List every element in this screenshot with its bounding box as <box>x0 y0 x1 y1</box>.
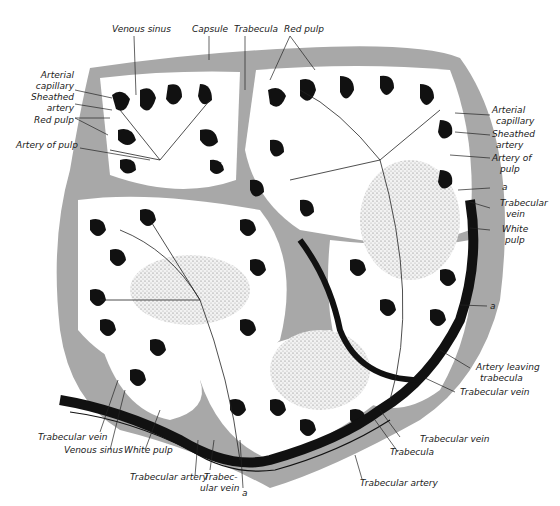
label-a-right-2: a <box>490 301 496 312</box>
label-sheathed-right-1: Sheathed <box>492 129 535 140</box>
label-white-pulp-right-2: pulp <box>505 235 525 246</box>
white-pulp-bottom <box>270 330 370 410</box>
label-artery-leaving-2: trabecula <box>480 373 523 384</box>
label-sheathed-right-2: artery <box>496 140 523 151</box>
label-a-bottom: a <box>242 488 248 499</box>
label-trabecula-bottom: Trabecula <box>390 447 434 458</box>
label-sheathed-left-2: artery <box>20 103 74 114</box>
label-trabecular-vein-bl: Trabecular vein <box>38 432 108 443</box>
label-red-pulp-left: Red pulp <box>20 115 74 126</box>
white-pulp-left <box>130 255 250 325</box>
label-a-right-1: a <box>502 182 508 193</box>
label-trabecular-artery-bottom: Trabecular artery <box>360 478 438 489</box>
label-venous-sinus-top: Venous sinus <box>112 24 171 35</box>
label-arterial-left-2: capillary <box>20 81 74 92</box>
label-red-pulp-top: Red pulp <box>284 24 324 35</box>
label-sheathed-left-1: Sheathed <box>20 92 74 103</box>
label-artery-leaving-1: Artery leaving <box>476 362 540 373</box>
label-trabecular-artery-bl: Trabecular artery <box>130 472 208 483</box>
label-arterial-left-1: Arterial <box>20 70 74 81</box>
label-venous-sinus-bottom: Venous sinus <box>64 445 123 456</box>
label-artery-of-pulp-right-2: pulp <box>500 164 520 175</box>
label-arterial-right-2: capillary <box>496 116 534 127</box>
spleen-diagram: Venous sinus Capsule Trabecula Red pulp … <box>0 0 560 506</box>
label-white-pulp-right-1: White <box>502 224 528 235</box>
label-artery-of-pulp-left: Artery of pulp <box>10 140 78 151</box>
label-trabecular-vein-right-3: Trabecular vein <box>460 387 530 398</box>
label-trabecular-vein-bottom: Trabecular vein <box>420 434 490 445</box>
label-arterial-right-1: Arterial <box>492 105 525 116</box>
diagram-illustration <box>0 0 560 506</box>
label-trabec-ular-vein-2: ular vein <box>200 483 239 494</box>
label-trabecular-vein-right-1: Trabecular <box>500 198 548 209</box>
label-artery-of-pulp-right-1: Artery of <box>492 153 532 164</box>
label-white-pulp-bottom: White pulp <box>124 445 173 456</box>
label-capsule: Capsule <box>192 24 228 35</box>
label-trabec-ular-vein-1: Trabec- <box>204 472 237 483</box>
label-trabecula-top: Trabecula <box>234 24 278 35</box>
label-trabecular-vein-right-2: vein <box>506 209 525 220</box>
